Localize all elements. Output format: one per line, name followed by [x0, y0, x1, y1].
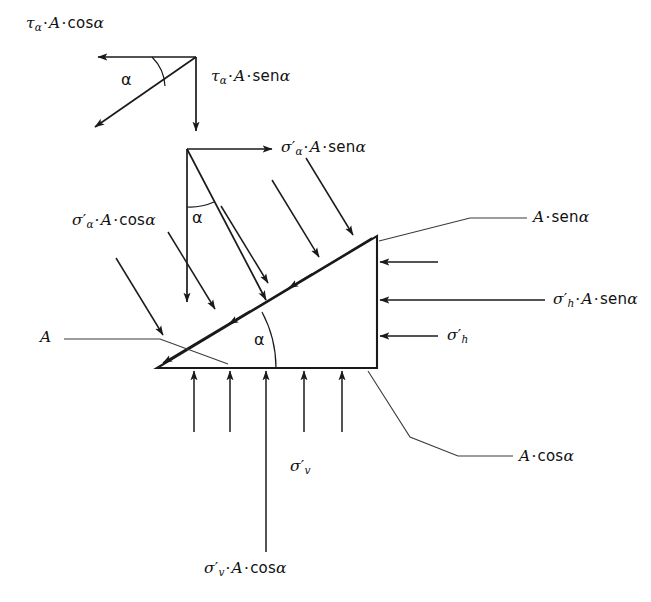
tau-resultant-arrow	[95, 57, 196, 127]
sigma-angle-arc	[187, 202, 214, 207]
label-sigma-h-A-sen: σ′h·A·senα	[553, 290, 638, 309]
label-A: A	[40, 328, 51, 346]
tau-vector-triangle	[95, 57, 196, 131]
wedge-path	[157, 236, 377, 368]
label-sigma-h: σ′h	[447, 326, 468, 345]
normal-arrow-5	[306, 158, 353, 235]
label-tau-a-cos: τα·A·cosα	[26, 14, 104, 33]
sigma-alpha-normal-arrows	[116, 158, 353, 335]
tau-angle-arc	[152, 57, 165, 86]
label-sigma-a-sen: σ′α·A·senα	[281, 138, 366, 157]
normal-arrow-1	[116, 258, 163, 335]
sigma-h-arrows	[380, 262, 545, 336]
sigma-v-arrows	[194, 371, 342, 552]
diagram-canvas: τα·A·cosα τα·A·senα σ′α·A·senα σ′α·A·cos…	[0, 0, 651, 602]
angle-label-sigma: α	[192, 208, 203, 227]
shear-arrow-3	[289, 238, 372, 288]
label-A-cos: A·cosα	[519, 447, 574, 465]
tau-alpha-shear-arrows	[163, 238, 372, 363]
leader-A-sen	[379, 218, 527, 241]
label-tau-a-sen: τα·A·senα	[211, 67, 290, 86]
normal-arrow-4	[272, 180, 319, 257]
angle-label-tau: α	[121, 70, 132, 89]
label-sigma-a-cos: σ′α·A·cosα	[72, 211, 156, 230]
label-A-sen: A·senα	[533, 208, 589, 226]
leader-A	[64, 339, 228, 364]
angle-label-wedge: α	[254, 330, 265, 349]
normal-arrow-2	[168, 232, 215, 309]
label-sigma-v-A-cos: σ′v·A·cosα	[204, 559, 287, 578]
label-sigma-v: σ′v	[290, 457, 310, 476]
normal-arrow-3	[221, 206, 268, 283]
wedge-outline	[157, 236, 377, 368]
leader-A-cos	[368, 371, 513, 456]
